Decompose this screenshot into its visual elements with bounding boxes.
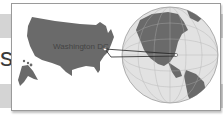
globe-icon <box>122 7 218 104</box>
dc-marker-globe-icon <box>174 53 177 56</box>
washington-dc-label: Washington DC <box>53 42 109 51</box>
map-illustration <box>0 0 223 117</box>
us-map-icon <box>18 17 114 86</box>
